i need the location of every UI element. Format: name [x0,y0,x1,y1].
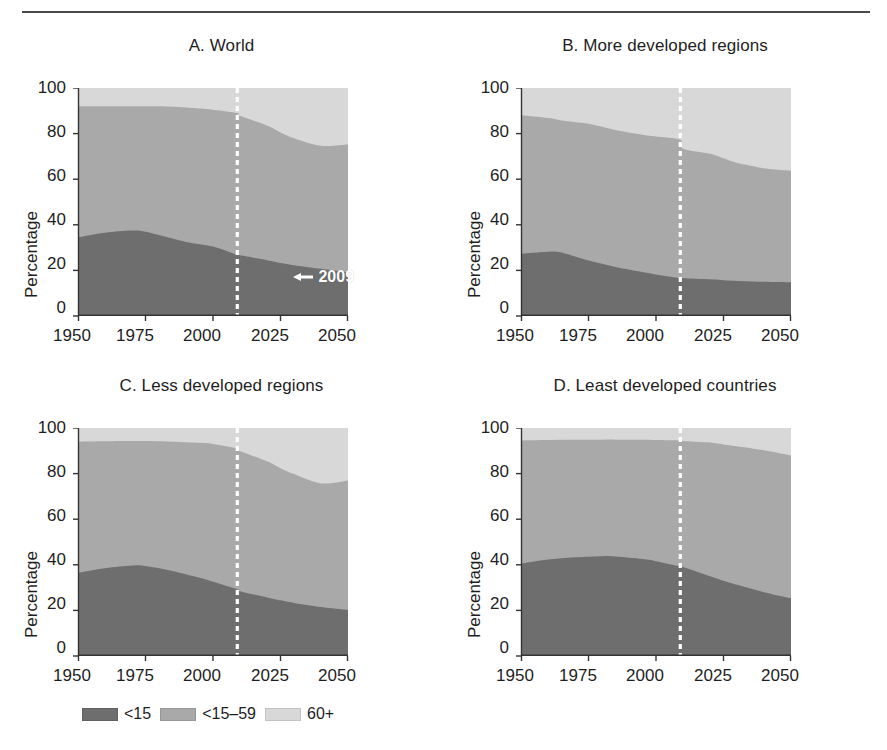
panel-c-ytick-100: 100 [18,418,66,438]
legend-item-60plus[interactable]: 60+ [265,706,334,722]
panel-a: A. World Percentage 100 80 60 40 20 0 19… [0,36,443,376]
panel-b-ytick-60: 60 [461,166,509,186]
legend-label-60plus: 60+ [307,706,334,722]
panel-c-xtick-2025: 2025 [240,666,300,686]
panel-c-xtick-1975: 1975 [105,666,165,686]
panel-a-ytick-40: 40 [18,210,66,230]
panel-d-area-chart [515,428,797,664]
panel-b: B. More developed regions Percentage 100… [443,36,887,376]
panel-d-plot [515,428,797,664]
panel-c-ytick-0: 0 [18,638,66,658]
panel-a-xtick-2025: 2025 [240,326,300,346]
panel-c-ytick-40: 40 [18,550,66,570]
left-arrow-icon [292,271,314,283]
figure-root: A. World Percentage 100 80 60 40 20 0 19… [0,0,887,750]
panel-b-xtick-2050: 2050 [750,326,810,346]
panel-b-xtick-2025: 2025 [683,326,743,346]
panel-a-xtick-2000: 2000 [172,326,232,346]
panel-a-ytick-0: 0 [18,298,66,318]
panel-d-ytick-100: 100 [461,418,509,438]
legend-label-15-59: <15–59 [202,706,256,722]
legend-label-under15: <15 [124,706,151,722]
panel-d-xtick-2025: 2025 [683,666,743,686]
panel-b-ytick-100: 100 [461,78,509,98]
panel-a-xtick-2050: 2050 [307,326,367,346]
panel-a-ytick-80: 80 [18,122,66,142]
panel-c-ytick-80: 80 [18,462,66,482]
panel-b-title: B. More developed regions [443,36,887,56]
panel-c-ytick-60: 60 [18,506,66,526]
panel-d-xtick-1975: 1975 [548,666,608,686]
panel-c-title: C. Less developed regions [0,376,443,396]
panel-b-plot [515,88,797,324]
panel-c-xtick-2050: 2050 [307,666,367,686]
legend-swatch-60plus [265,708,301,721]
panel-d-ytick-80: 80 [461,462,509,482]
panel-a-title: A. World [0,36,443,56]
panel-a-ytick-20: 20 [18,254,66,274]
panel-a-xtick-1975: 1975 [105,326,165,346]
panel-b-area-chart [515,88,797,324]
legend-swatch-under15 [82,708,118,721]
panel-a-ytick-60: 60 [18,166,66,186]
panel-b-xtick-2000: 2000 [615,326,675,346]
panel-d-ytick-60: 60 [461,506,509,526]
panel-c-area-chart [72,428,354,664]
panel-b-xtick-1975: 1975 [548,326,608,346]
panel-b-ytick-20: 20 [461,254,509,274]
panel-d-xtick-2050: 2050 [750,666,810,686]
panel-a-ytick-100: 100 [18,78,66,98]
legend-swatch-15-59 [160,708,196,721]
panel-d-ytick-40: 40 [461,550,509,570]
panel-d-xtick-1950: 1950 [485,666,545,686]
panel-b-xtick-1950: 1950 [485,326,545,346]
panel-c-xtick-1950: 1950 [42,666,102,686]
top-rule-divider [22,11,870,13]
panel-c: C. Less developed regions Percentage 100… [0,376,443,706]
panel-d-xtick-2000: 2000 [615,666,675,686]
panel-d-ytick-0: 0 [461,638,509,658]
panel-d: D. Least developed countries Percentage … [443,376,887,706]
panel-c-ytick-20: 20 [18,594,66,614]
panel-b-ytick-40: 40 [461,210,509,230]
legend-item-under15[interactable]: <15 [82,706,151,722]
panel-c-plot [72,428,354,664]
annotation-2009: 2009 [292,268,354,286]
panel-b-ytick-0: 0 [461,298,509,318]
panel-a-area-chart [72,88,354,324]
legend-item-15-59[interactable]: <15–59 [160,706,256,722]
panel-c-xtick-2000: 2000 [172,666,232,686]
panel-a-plot [72,88,354,324]
legend: <15 <15–59 60+ [82,706,334,722]
panel-b-ytick-80: 80 [461,122,509,142]
panel-d-ytick-20: 20 [461,594,509,614]
panel-a-xtick-1950: 1950 [42,326,102,346]
panel-d-title: D. Least developed countries [443,376,887,396]
annotation-2009-label: 2009 [318,268,354,285]
